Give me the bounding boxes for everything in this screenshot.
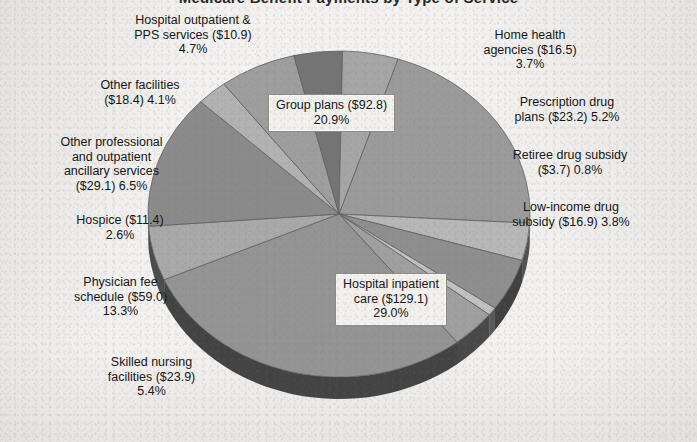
label-hospice-line1: Hospice ($11.4) (20, 213, 220, 228)
label-other-professional-outpatient-ancillary: Other professional and outpatient ancill… (4, 135, 219, 193)
label-low-income-drug-subsidy: Low-income drug subsidy ($16.9) 3.8% (452, 200, 690, 229)
label-hospital-outpatient-pps: Hospital outpatient & PPS services ($10.… (63, 13, 323, 57)
label-hospice: Hospice ($11.4) 2.6% (20, 213, 220, 242)
label-skilled-nursing-line2: facilities ($23.9) (44, 370, 259, 385)
callout-hospital-inpatient: Hospital inpatient care ($129.1) 29.0% (335, 273, 447, 326)
label-other-facilities-line2: ($18.4) 4.1% (30, 93, 250, 108)
label-physician-fee-line2: schedule ($59.0) (18, 290, 223, 305)
label-other-professional-line2: and outpatient (4, 150, 219, 165)
label-retiree-drug-line1: Retiree drug subsidy (452, 148, 688, 163)
label-other-facilities: Other facilities ($18.4) 4.1% (30, 78, 250, 107)
label-other-professional-line4: ($29.1) 6.5% (4, 179, 219, 194)
label-physician-fee-line3: 13.3% (18, 304, 223, 319)
label-home-health-line3: 3.7% (430, 57, 630, 72)
label-low-income-drug-line2: subsidy ($16.9) 3.8% (452, 215, 690, 230)
label-physician-fee-schedule: Physician fee schedule ($59.0) 13.3% (18, 275, 223, 319)
label-home-health-agencies: Home health agencies ($16.5) 3.7% (430, 28, 630, 72)
callout-group-plans: Group plans ($92.8) 20.9% (268, 94, 395, 132)
label-prescription-drug-line2: plans ($23.2) 5.2% (452, 110, 682, 125)
label-home-health-line2: agencies ($16.5) (430, 43, 630, 58)
label-skilled-nursing-facilities: Skilled nursing facilities ($23.9) 5.4% (44, 355, 259, 399)
label-other-facilities-line1: Other facilities (30, 78, 250, 93)
callout-group-plans-line2: 20.9% (276, 113, 387, 128)
label-prescription-drug-plans: Prescription drug plans ($23.2) 5.2% (452, 95, 682, 124)
label-hospital-outpatient-line3: 4.7% (63, 42, 323, 57)
label-hospice-line2: 2.6% (20, 228, 220, 243)
label-home-health-line1: Home health (430, 28, 630, 43)
label-prescription-drug-line1: Prescription drug (452, 95, 682, 110)
label-retiree-drug-subsidy: Retiree drug subsidy ($3.7) 0.8% (452, 148, 688, 177)
label-low-income-drug-line1: Low-income drug (452, 200, 690, 215)
label-other-professional-line3: ancillary services (4, 164, 219, 179)
label-skilled-nursing-line3: 5.4% (44, 384, 259, 399)
label-hospital-outpatient-line1: Hospital outpatient & (63, 13, 323, 28)
label-other-professional-line1: Other professional (4, 135, 219, 150)
callout-hospital-inpatient-line3: 29.0% (343, 306, 439, 321)
label-skilled-nursing-line1: Skilled nursing (44, 355, 259, 370)
callout-hospital-inpatient-line2: care ($129.1) (343, 292, 439, 307)
label-physician-fee-line1: Physician fee (18, 275, 223, 290)
callout-group-plans-line1: Group plans ($92.8) (276, 98, 387, 113)
label-retiree-drug-line2: ($3.7) 0.8% (452, 163, 688, 178)
label-hospital-outpatient-line2: PPS services ($10.9) (63, 28, 323, 43)
callout-hospital-inpatient-line1: Hospital inpatient (343, 277, 439, 292)
pie-chart: Group plans ($92.8) 20.9% Hospital inpat… (0, 0, 697, 442)
